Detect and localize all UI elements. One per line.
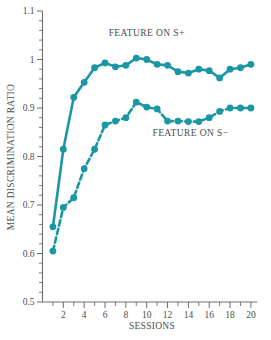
- data-point-marker: [185, 118, 192, 125]
- data-point-marker: [227, 66, 234, 73]
- data-point-marker: [206, 67, 213, 74]
- x-tick-label: 10: [142, 310, 152, 320]
- chart-container: 0.50.60.70.80.911.1 MEAN DISCRIMINATION …: [0, 0, 271, 340]
- data-point-marker: [133, 99, 140, 106]
- data-point-marker: [112, 63, 119, 70]
- y-tick-label: 0.9: [23, 103, 35, 113]
- data-point-marker: [154, 61, 161, 68]
- y-tick-label: 0.5: [23, 297, 35, 307]
- data-point-marker: [237, 105, 244, 112]
- data-point-marker: [206, 114, 213, 121]
- data-point-marker: [216, 75, 223, 82]
- data-point-marker: [164, 62, 171, 69]
- data-point-marker: [50, 248, 57, 255]
- annotation-feature-on-s-plus: FEATURE ON S+: [109, 28, 185, 38]
- y-axis-major-ticks: [37, 11, 43, 302]
- y-tick-label: 0.6: [23, 249, 35, 259]
- data-point-marker: [122, 62, 129, 69]
- x-tick-label: 18: [225, 310, 235, 320]
- data-point-marker: [91, 64, 98, 71]
- data-point-marker: [143, 56, 150, 63]
- data-point-marker: [185, 70, 192, 77]
- data-point-marker: [70, 194, 77, 201]
- x-tick-label: 4: [82, 310, 87, 320]
- discrimination-ratio-line-chart: 0.50.60.70.80.911.1 MEAN DISCRIMINATION …: [0, 0, 271, 340]
- data-point-marker: [70, 94, 77, 101]
- data-point-marker: [91, 146, 98, 153]
- data-point-marker: [175, 118, 182, 125]
- y-axis-group: 0.50.60.70.80.911.1 MEAN DISCRIMINATION …: [6, 6, 43, 307]
- x-tick-label: 12: [163, 310, 173, 320]
- data-point-marker: [112, 118, 119, 125]
- data-point-marker: [216, 108, 223, 115]
- data-point-marker: [248, 61, 255, 68]
- x-tick-label: 16: [204, 310, 214, 320]
- data-point-marker: [81, 79, 88, 86]
- series-feature-on-s-plus: [50, 55, 255, 231]
- series-line: [53, 102, 251, 251]
- x-tick-label: 2: [61, 310, 66, 320]
- data-point-marker: [60, 146, 67, 153]
- data-point-marker: [122, 114, 129, 121]
- data-point-marker: [164, 118, 171, 125]
- x-axis-group: 2468101214161820 SESSIONS: [43, 302, 258, 331]
- y-tick-label: 0.7: [23, 200, 35, 210]
- x-tick-label: 20: [246, 310, 256, 320]
- series-feature-on-s-minus: [50, 99, 255, 255]
- annotation-feature-on-s-minus: FEATURE ON S−: [152, 128, 228, 138]
- data-point-marker: [81, 165, 88, 172]
- y-tick-label: 0.8: [23, 152, 35, 162]
- data-point-marker: [60, 204, 67, 211]
- x-tick-label: 6: [103, 310, 108, 320]
- y-tick-label: 1.1: [23, 6, 35, 16]
- data-point-marker: [154, 106, 161, 113]
- series-layer: [50, 55, 255, 255]
- data-point-marker: [237, 64, 244, 71]
- data-point-marker: [50, 223, 57, 230]
- y-tick-label: 1: [30, 55, 35, 65]
- data-point-marker: [143, 104, 150, 111]
- x-tick-label: 14: [184, 310, 194, 320]
- data-point-marker: [227, 105, 234, 112]
- data-point-marker: [248, 105, 255, 112]
- x-axis-title: SESSIONS: [129, 321, 175, 331]
- data-point-marker: [102, 60, 109, 67]
- data-point-marker: [195, 66, 202, 73]
- x-tick-label: 8: [123, 310, 128, 320]
- data-point-marker: [175, 68, 182, 75]
- data-point-marker: [102, 122, 109, 129]
- y-axis-title: MEAN DISCRIMINATION RATIO: [6, 84, 16, 230]
- x-axis-tick-labels: 2468101214161820: [61, 310, 256, 320]
- y-axis-tick-labels: 0.50.60.70.80.911.1: [23, 6, 35, 307]
- data-point-marker: [195, 118, 202, 125]
- data-point-marker: [133, 55, 140, 62]
